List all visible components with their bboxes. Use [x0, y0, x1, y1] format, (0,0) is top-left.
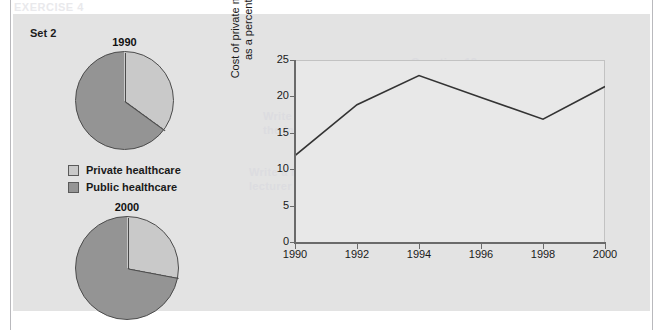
legend-swatch-private-icon [68, 165, 79, 176]
y-tick-label: 10 [277, 162, 289, 174]
pie-graphic-1990 [75, 51, 174, 150]
x-tick-label: 1992 [345, 248, 369, 260]
y-tick-label: 0 [283, 235, 289, 247]
y-tick-mark [290, 133, 295, 134]
legend-item-private: Private healthcare [68, 164, 181, 176]
legend-label-public: Public healthcare [86, 181, 177, 193]
pie-slice-divider [125, 101, 165, 130]
x-tick-label: 1990 [283, 248, 307, 260]
pie-title-2000: 2000 [75, 201, 179, 213]
pie-title-1990: 1990 [75, 36, 174, 48]
y-tick-label: 20 [277, 89, 289, 101]
x-tick-label: 1996 [469, 248, 493, 260]
y-tick-mark [290, 242, 295, 243]
page-left-rule [10, 0, 11, 330]
y-tick-label: 25 [277, 53, 289, 65]
y-tick-mark [290, 60, 295, 61]
line-chart: Cost of private medical insurance as a p… [235, 42, 635, 292]
y-tick-mark [290, 206, 295, 207]
x-tick-label: 2000 [593, 248, 617, 260]
pie-graphic-2000 [75, 216, 179, 320]
page-top-cut-text: EXERCISE 4 [14, 1, 234, 12]
y-tick-label: 5 [283, 199, 289, 211]
plot-area [295, 60, 605, 242]
figure-panel: Question 12Look at the charts belowWrite… [13, 14, 650, 311]
x-tick-label: 1998 [531, 248, 555, 260]
legend-swatch-public-icon [68, 182, 79, 193]
legend-label-private: Private healthcare [86, 164, 181, 176]
y-axis-line [294, 60, 296, 244]
pie-slice-divider [128, 269, 178, 280]
set-label: Set 2 [30, 27, 56, 39]
legend: Private healthcare Public healthcare [68, 164, 181, 198]
x-tick-label: 1994 [407, 248, 431, 260]
x-axis-line [294, 242, 606, 244]
y-tick-mark [290, 96, 295, 97]
line-series-svg [295, 61, 605, 243]
y-tick-label: 15 [277, 126, 289, 138]
y-tick-mark [290, 169, 295, 170]
page-right-rule [652, 0, 653, 330]
legend-item-public: Public healthcare [68, 181, 181, 193]
pie-chart-1990: 1990 [75, 36, 174, 150]
y-axis-title: Cost of private medical insurance as a p… [229, 0, 255, 82]
pie-chart-2000: 2000 [75, 201, 179, 320]
pie-slice-divider [125, 53, 126, 102]
data-line [295, 76, 605, 156]
pie-slice-divider [128, 218, 129, 269]
